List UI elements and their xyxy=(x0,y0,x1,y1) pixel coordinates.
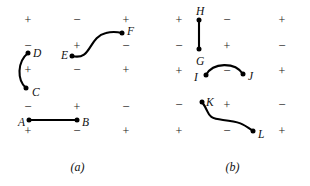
endpoint-dot-J xyxy=(241,72,246,77)
endpoint-dot-K xyxy=(200,100,205,105)
sign-cell-r3-c1: + xyxy=(173,65,185,77)
sign-cell-r4-c1: − xyxy=(173,99,185,111)
panel-b-paths xyxy=(155,0,310,186)
point-label-G: G xyxy=(196,56,204,68)
sign-cell-r5-c1: + xyxy=(173,125,185,137)
point-label-B: B xyxy=(82,117,89,129)
sign-cell-r1-c3: + xyxy=(276,14,288,26)
point-label-K: K xyxy=(206,97,214,109)
sign-cell-r1-c2: − xyxy=(221,14,233,26)
figure-root: +−+−+−+−+−+−+−+ ABCDEF (a) +−+−+−+−+−+−+… xyxy=(0,0,310,186)
sign-cell-r3-c1: + xyxy=(22,64,34,76)
point-label-C: C xyxy=(32,87,40,99)
panel-b-caption: (b) xyxy=(155,160,310,175)
endpoint-dot-C xyxy=(24,86,29,91)
point-label-L: L xyxy=(258,129,264,141)
sign-cell-r4-c1: − xyxy=(22,101,34,113)
sign-cell-r1-c1: + xyxy=(22,14,34,26)
sign-cell-r4-c2: + xyxy=(71,101,83,113)
endpoint-dot-B xyxy=(75,118,80,123)
point-label-I: I xyxy=(194,72,198,84)
sign-cell-r1-c2: − xyxy=(71,14,83,26)
sign-cell-r3-c3: + xyxy=(276,65,288,77)
endpoint-dot-E xyxy=(70,54,75,59)
endpoint-dot-G xyxy=(197,47,202,52)
endpoint-dot-L xyxy=(251,129,256,134)
panel-a: +−+−+−+−+−+−+−+ ABCDEF (a) xyxy=(0,0,155,186)
point-label-D: D xyxy=(33,48,41,60)
point-label-A: A xyxy=(18,117,25,129)
sign-cell-r4-c3: − xyxy=(276,99,288,111)
sign-cell-r5-c2: − xyxy=(221,125,233,137)
sign-cell-r2-c3: − xyxy=(276,40,288,52)
point-label-H: H xyxy=(196,6,204,18)
panel-a-caption: (a) xyxy=(0,160,155,175)
sign-cell-r3-c3: + xyxy=(120,64,132,76)
sign-cell-r2-c3: − xyxy=(120,40,132,52)
sign-cell-r3-c2: − xyxy=(71,64,83,76)
panel-b: +−+−+−+−+−+−+−+ HGIJKL (b) xyxy=(155,0,310,186)
sign-cell-r4-c3: − xyxy=(120,101,132,113)
sign-cell-r2-c2: + xyxy=(71,40,83,52)
sign-cell-r2-c1: − xyxy=(173,40,185,52)
sign-cell-r5-c3: + xyxy=(276,125,288,137)
point-label-F: F xyxy=(127,26,134,38)
point-label-J: J xyxy=(248,71,253,83)
sign-cell-r5-c3: + xyxy=(120,125,132,137)
sign-cell-r2-c2: + xyxy=(221,40,233,52)
sign-cell-r4-c2: + xyxy=(221,99,233,111)
endpoint-dot-H xyxy=(197,18,202,23)
sign-cell-r3-c2: − xyxy=(221,65,233,77)
endpoint-dot-A xyxy=(27,118,32,123)
endpoint-dot-I xyxy=(204,73,209,78)
endpoint-dot-F xyxy=(120,31,125,36)
point-label-E: E xyxy=(61,50,68,62)
sign-cell-r1-c1: + xyxy=(173,14,185,26)
